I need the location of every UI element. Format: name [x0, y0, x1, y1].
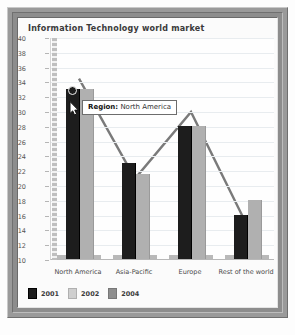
tooltip: Region: North America — [82, 100, 177, 115]
gridline — [51, 38, 274, 39]
x-axis-label: Asia-Pacific — [106, 268, 162, 276]
y-axis-tick-label: 26 — [4, 138, 26, 146]
gridline — [51, 82, 274, 83]
y-axis-tick — [45, 201, 49, 202]
y-axis-tick-label: 38 — [4, 49, 26, 57]
y-axis-tick — [45, 127, 49, 128]
legend-item-2001[interactable]: 2001 — [28, 288, 59, 299]
y-axis-tick-label: 20 — [4, 183, 26, 191]
y-axis-tick — [45, 186, 49, 187]
y-axis-tick-label: 28 — [4, 123, 26, 131]
y-axis-tick — [45, 38, 49, 39]
tooltip-value: North America — [120, 103, 171, 111]
y-axis-tick-label: 34 — [4, 79, 26, 87]
legend: 2001 2002 2004 — [28, 288, 139, 299]
y-axis-tick-label: 32 — [4, 94, 26, 102]
legend-item-2002[interactable]: 2002 — [68, 288, 99, 299]
bar-2002[interactable] — [192, 126, 206, 259]
legend-swatch-2002 — [68, 288, 77, 299]
y-axis-tick-label: 10 — [4, 257, 26, 265]
legend-swatch-2004 — [108, 288, 117, 299]
plot-area[interactable] — [50, 38, 274, 260]
y-axis-tick — [45, 142, 49, 143]
y-axis-tick-label: 22 — [4, 168, 26, 176]
gridline — [51, 53, 274, 54]
bar-2001[interactable] — [178, 126, 192, 259]
mouse-cursor-icon — [69, 101, 80, 116]
y-axis-tick-label: 30 — [4, 109, 26, 117]
x-axis-label: Europe — [162, 268, 218, 276]
legend-label-2002: 2002 — [81, 290, 99, 298]
y-axis-tick-label: 16 — [4, 212, 26, 220]
x-axis-label: North America — [50, 268, 106, 276]
y-axis-tick — [45, 260, 49, 261]
bar-2001[interactable] — [122, 163, 136, 259]
y-axis-tick — [45, 82, 49, 83]
y-axis-tick-label: 14 — [4, 227, 26, 235]
legend-label-2001: 2001 — [41, 290, 59, 298]
data-point-marker[interactable] — [68, 86, 77, 95]
y-axis-tick — [45, 245, 49, 246]
y-axis-band — [52, 38, 57, 260]
x-axis-label: Rest of the world — [218, 268, 274, 276]
tooltip-label: Region: — [88, 103, 118, 111]
chart-title: Information Technology world market — [28, 24, 204, 33]
chart-screenshot: Information Technology world market 1012… — [0, 0, 295, 335]
legend-item-2004[interactable]: 2004 — [108, 288, 139, 299]
gridline — [51, 68, 274, 69]
bar-2001[interactable] — [234, 215, 248, 259]
chart-frame-inner: Information Technology world market 1012… — [12, 12, 283, 313]
y-axis-tick — [45, 53, 49, 54]
y-axis-tick — [45, 171, 49, 172]
y-axis-tick-label: 40 — [4, 35, 26, 43]
y-axis-tick — [45, 230, 49, 231]
legend-swatch-2001 — [28, 288, 37, 299]
bar-2002[interactable] — [136, 174, 150, 259]
chart-frame-outer: Information Technology world market 1012… — [7, 7, 288, 318]
y-axis-tick-label: 12 — [4, 242, 26, 250]
y-axis-tick — [45, 68, 49, 69]
y-axis-tick — [45, 97, 49, 98]
bar-2002[interactable] — [248, 200, 262, 259]
legend-label-2004: 2004 — [121, 290, 139, 298]
chart-panel: Information Technology world market 1012… — [17, 17, 278, 308]
y-axis-tick-label: 24 — [4, 153, 26, 161]
y-axis-tick — [45, 112, 49, 113]
y-axis-tick — [45, 156, 49, 157]
y-axis-tick — [45, 216, 49, 217]
y-axis-tick-label: 18 — [4, 197, 26, 205]
plot-wrapper: 10121416182022242628303234363840 Region:… — [26, 38, 274, 273]
y-axis-tick-label: 36 — [4, 64, 26, 72]
